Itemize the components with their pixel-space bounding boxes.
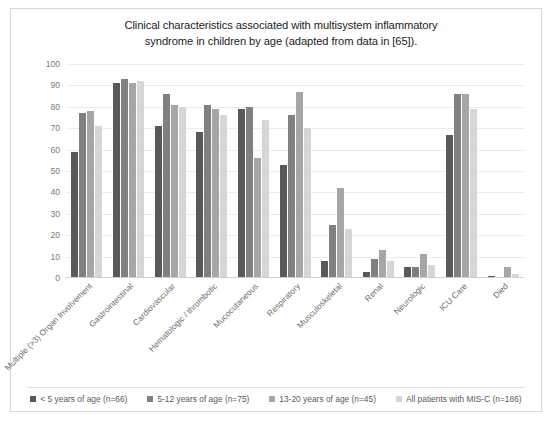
legend-swatch-icon [147,396,153,402]
bar[interactable] [254,158,261,278]
bar[interactable] [304,128,311,278]
y-axis-tick-label: 50 [50,166,60,176]
bar-group [399,64,441,278]
legend-item[interactable]: < 5 years of age (n=66) [30,394,127,404]
bar[interactable] [71,152,78,278]
chart-title: Clinical characteristics associated with… [71,17,491,49]
bar-group [441,64,483,278]
legend-item[interactable]: All patients with MIS-C (n=186) [396,394,522,404]
y-axis-tick-label: 30 [50,209,60,219]
bar[interactable] [220,115,227,278]
legend-swatch-icon [396,396,402,402]
legend-label: < 5 years of age (n=66) [40,394,127,404]
legend-item[interactable]: 5-12 years of age (n=75) [147,394,249,404]
y-axis-tick-label: 10 [50,252,60,262]
bar-group [66,64,108,278]
chart-legend: < 5 years of age (n=66)5-12 years of age… [27,387,525,410]
legend-swatch-icon [269,396,275,402]
y-axis-tick-label: 60 [50,145,60,155]
bar[interactable] [470,109,477,278]
x-axis-labels: Multiple (>3) Organ InvolvementGastroint… [66,281,524,389]
bar[interactable] [137,81,144,278]
chart-title-line-1: Clinical characteristics associated with… [124,19,437,31]
bar[interactable] [79,113,86,278]
bar[interactable] [171,105,178,278]
legend-label: All patients with MIS-C (n=186) [406,394,522,404]
legend-label: 5-12 years of age (n=75) [157,394,249,404]
bar[interactable] [329,225,336,279]
bar[interactable] [462,94,469,278]
legend-item[interactable]: 13-20 years of age (n=45) [269,394,376,404]
bar[interactable] [262,120,269,278]
bar[interactable] [454,94,461,278]
bar-group [482,64,524,278]
bar[interactable] [337,188,344,278]
bar-group [316,64,358,278]
y-axis-tick-label: 70 [50,123,60,133]
chart-title-line-2: syndrome in children by age (adapted fro… [145,35,417,47]
y-axis-tick-label: 90 [50,80,60,90]
chart-panel: Clinical characteristics associated with… [10,8,542,412]
y-axis-tick-label: 100 [46,59,60,69]
bar[interactable] [371,259,378,278]
bar[interactable] [95,126,102,278]
bar[interactable] [212,109,219,278]
legend-swatch-icon [30,396,36,402]
y-axis-tick-label: 20 [50,230,60,240]
bar[interactable] [179,107,186,278]
y-axis-tick-label: 0 [55,273,60,283]
y-axis-tick-label: 40 [50,187,60,197]
legend-label: 13-20 years of age (n=45) [279,394,376,404]
y-axis-tick-label: 80 [50,102,60,112]
bar[interactable] [87,111,94,278]
